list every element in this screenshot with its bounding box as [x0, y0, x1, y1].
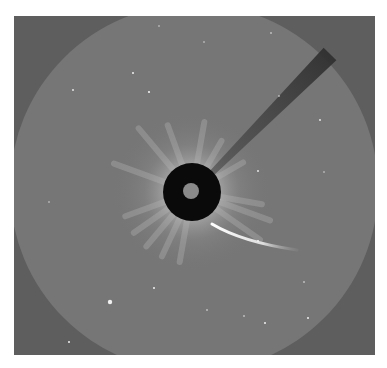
star [319, 119, 321, 121]
star [270, 32, 272, 34]
star [264, 322, 266, 324]
star [323, 171, 324, 172]
star [243, 315, 245, 317]
star [257, 170, 259, 172]
star [158, 25, 159, 26]
star [68, 341, 70, 343]
star [72, 89, 74, 91]
star [257, 240, 259, 242]
star [132, 72, 134, 74]
star [48, 201, 49, 202]
star [307, 317, 309, 319]
star [303, 281, 305, 283]
sun-disk-marker [183, 183, 199, 199]
star [203, 41, 204, 42]
star [278, 95, 280, 97]
star [206, 309, 208, 311]
star [108, 300, 112, 304]
star [148, 91, 150, 93]
coronagraph-image [14, 16, 375, 355]
star [153, 287, 155, 289]
